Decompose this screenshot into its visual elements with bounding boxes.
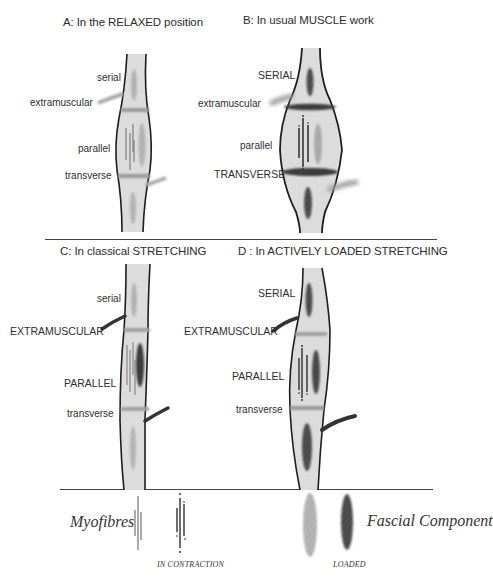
panel-c-label-serial: serial	[97, 293, 121, 304]
panel-d-label-serial: SERIAL	[258, 287, 295, 299]
panel-a-label-serial: serial	[97, 72, 121, 83]
panel-b-label-extramuscular: extramuscular	[198, 98, 261, 109]
legend-contraction-glyph	[177, 498, 184, 548]
legend-in-contraction-label: IN CONTRACTION	[157, 560, 224, 569]
legend-fascial-component-label: Fascial Component	[367, 512, 493, 530]
panel-a-label-extramuscular: extramuscular	[30, 97, 93, 108]
legend-myofibres-glyph	[135, 496, 141, 550]
panel-d-label-parallel: PARALLEL	[232, 370, 284, 382]
panel-c-label-extramuscular: EXTRAMUSCULAR	[10, 325, 104, 337]
panel-d-label-transverse: transverse	[236, 404, 283, 415]
legend-loaded-label: LOADED	[333, 560, 366, 569]
panel-c-label-parallel: PARALLEL	[64, 377, 116, 389]
panel-d-label-extramuscular: EXTRAMUSCULAR	[184, 325, 278, 337]
panel-c-label-transverse: transverse	[67, 408, 114, 419]
panel-a-label-parallel: parallel	[78, 143, 110, 154]
muscle-d	[273, 268, 355, 490]
legend-myofibres-label: Myofibres	[70, 513, 134, 531]
panel-a-label-transverse: transverse	[65, 170, 112, 181]
panel-b-label-serial: SERIAL	[258, 69, 295, 81]
legend-fascia-relaxed-glyph	[303, 493, 317, 557]
panel-b-label-transverse: TRANSVERSE	[214, 168, 285, 180]
legend-fascia-loaded-glyph	[341, 494, 353, 550]
panel-b-label-parallel: parallel	[240, 140, 272, 151]
